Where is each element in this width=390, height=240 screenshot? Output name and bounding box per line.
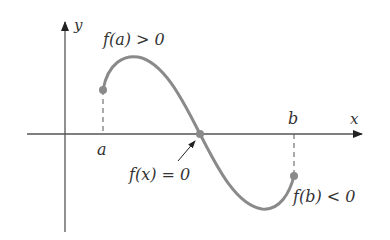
ivt-diagram: y x a b f(a) > 0 f(x) = 0 f(b) < 0	[0, 0, 390, 240]
root-annotation: f(x) = 0	[128, 165, 190, 184]
b-label: b	[288, 109, 298, 128]
a-label: a	[97, 140, 107, 159]
y-axis-label: y	[73, 16, 83, 34]
fa-annotation: f(a) > 0	[102, 30, 165, 49]
point-a	[99, 86, 107, 94]
root-pointer-arrow	[178, 141, 195, 161]
fb-annotation: f(b) < 0	[292, 187, 355, 206]
diagram-canvas: y x a b f(a) > 0 f(x) = 0 f(b) < 0	[0, 0, 390, 240]
point-b	[290, 172, 298, 180]
x-axis-label: x	[350, 110, 359, 128]
point-root	[196, 130, 204, 138]
